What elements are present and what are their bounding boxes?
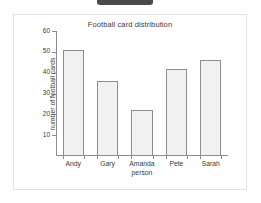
y-axis-line [56,31,57,156]
y-tick-mark [52,52,56,53]
x-tick-mark [153,156,154,159]
x-label-amanda: Amanda [129,160,154,167]
top-tab-bar[interactable] [97,0,153,5]
bar-gary [97,81,118,156]
x-tick-mark [221,156,222,159]
bar-pete [166,69,187,157]
x-tick-mark [200,156,201,159]
x-label-andy: Andy [65,160,81,167]
x-tick-mark [63,156,64,159]
y-tick-label: 50 [43,47,50,54]
y-tick-label: 60 [43,27,50,34]
x-label-gary: Gary [100,160,115,167]
x-label-pete: Pete [169,160,183,167]
y-tick-mark [52,31,56,32]
bar-amanda [131,110,152,156]
x-tick-mark [97,156,98,159]
bar-andy [63,50,84,156]
x-label-sarah: Sarah [202,160,220,167]
y-tick-mark [52,135,56,136]
bar-sarah [200,60,221,156]
x-axis-title: person [56,169,228,176]
y-tick-label: 10 [43,131,50,138]
x-tick-mark [118,156,119,159]
x-tick-mark [166,156,167,159]
x-tick-mark [187,156,188,159]
plot-area: 102030405060 AndyGaryAmandaPeteSarah per… [56,31,228,156]
x-tick-mark [84,156,85,159]
y-axis-title: number of football cards [49,57,56,130]
x-tick-mark [131,156,132,159]
